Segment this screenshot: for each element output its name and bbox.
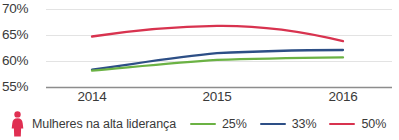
y-tick-label-70: 70% bbox=[2, 2, 44, 16]
legend-swatch-33 bbox=[260, 123, 286, 125]
y-tick-label-65: 65% bbox=[2, 28, 44, 42]
chart-plot-svg bbox=[0, 0, 399, 96]
y-tick-label-55: 55% bbox=[2, 80, 44, 94]
x-tick-label-2014: 2014 bbox=[77, 90, 106, 104]
x-tick-label-2016: 2016 bbox=[328, 90, 357, 104]
legend-label-50: 50% bbox=[361, 117, 386, 131]
legend-swatch-25 bbox=[190, 123, 216, 125]
legend-entry-50[interactable]: 50% bbox=[329, 117, 386, 131]
legend-swatch-50 bbox=[329, 123, 355, 125]
legend-entry-25[interactable]: 25% bbox=[190, 117, 247, 131]
legend-entry-33[interactable]: 33% bbox=[260, 117, 317, 131]
x-tick-label-2015: 2015 bbox=[202, 90, 231, 104]
legend-title: Mulheres na alta liderança bbox=[32, 117, 176, 131]
plot-area: 70% 65% 60% 55% 2014 2015 2016 bbox=[0, 0, 399, 96]
woman-figure-icon bbox=[4, 111, 30, 137]
y-tick-label-60: 60% bbox=[2, 54, 44, 68]
legend-entries: 25% 33% 50% bbox=[190, 117, 399, 131]
chart-container: 70% 65% 60% 55% 2014 2015 2016 Mulheres … bbox=[0, 0, 399, 140]
woman-figure-icon-svg bbox=[11, 111, 24, 137]
series-line-50 bbox=[92, 26, 343, 41]
legend-label-33: 33% bbox=[292, 117, 317, 131]
legend-label-25: 25% bbox=[222, 117, 247, 131]
chart-legend: Mulheres na alta liderança 25% 33% 50% bbox=[0, 108, 399, 140]
